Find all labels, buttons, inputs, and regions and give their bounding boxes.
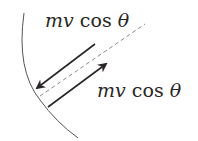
outgoing-func: cos [132, 79, 164, 101]
incoming-arrow [37, 44, 95, 88]
outgoing-angle: θ [170, 79, 181, 101]
incoming-momentum-label: mv cos θ [45, 11, 129, 30]
outgoing-momentum-label: mv cos θ [97, 81, 181, 100]
outgoing-var: mv [97, 79, 126, 101]
incoming-angle: θ [118, 9, 129, 31]
momentum-diagram: mv cos θ mv cos θ [0, 0, 198, 141]
incoming-func: cos [80, 9, 112, 31]
incoming-var: mv [45, 9, 74, 31]
